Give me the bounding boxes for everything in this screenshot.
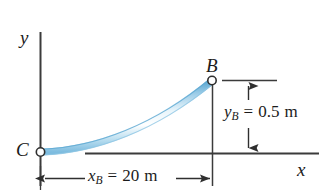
dimension-yb-equals: = [244, 102, 254, 121]
point-label-b: B [206, 56, 218, 75]
dimension-yb-value: 0.5 [258, 102, 279, 121]
dimension-xb-equals: = [108, 166, 118, 185]
dimension-yb-unit: m [284, 102, 297, 121]
dimension-xb-unit: m [144, 166, 157, 185]
dimension-yb-subscript: B [232, 110, 239, 123]
dimension-label-yb: yB=0.5m [224, 103, 298, 123]
x-axis-label: x [297, 160, 305, 179]
cable-curve-bottom-edge [42, 84, 213, 155]
cable-curve-top-edge [42, 78, 211, 149]
dimension-xb-symbol: x [88, 166, 96, 185]
cable-curve [42, 81, 212, 152]
y-axis-label: y [20, 28, 28, 47]
point-marker-c [36, 148, 44, 156]
point-label-c: C [16, 140, 29, 159]
dimension-xb-subscript: B [96, 174, 103, 187]
diagram-canvas [0, 0, 333, 195]
cable-sag-diagram: y x B C yB=0.5m xB=20m [0, 0, 333, 195]
dimension-xb-value: 20 [122, 166, 139, 185]
dimension-label-xb: xB=20m [88, 167, 157, 187]
point-marker-b [208, 76, 216, 84]
dimension-yb-symbol: y [224, 102, 232, 121]
